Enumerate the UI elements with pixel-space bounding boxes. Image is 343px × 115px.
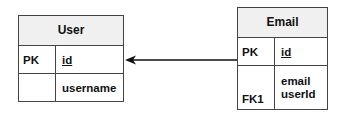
attribute-id: id	[275, 38, 291, 65]
key-label	[19, 74, 56, 102]
attribute-email: email	[281, 75, 316, 88]
attribute-username: username	[56, 74, 116, 102]
attribute-id: id	[56, 46, 72, 73]
attribute-list: email userId	[275, 66, 316, 109]
key-label: FK1	[238, 66, 275, 109]
key-label: PK	[238, 38, 275, 65]
entity-email: Email PK id FK1 email userId	[237, 7, 328, 110]
entity-title: User	[19, 16, 123, 46]
entity-row-fk: FK1 email userId	[238, 66, 327, 109]
key-label: PK	[19, 46, 56, 73]
attribute-userid: userId	[281, 88, 316, 101]
entity-row: username	[19, 74, 123, 102]
entity-row-pk: PK id	[19, 46, 123, 74]
entity-user: User PK id username	[18, 15, 124, 102]
entity-title: Email	[238, 8, 327, 38]
entity-row-pk: PK id	[238, 38, 327, 66]
